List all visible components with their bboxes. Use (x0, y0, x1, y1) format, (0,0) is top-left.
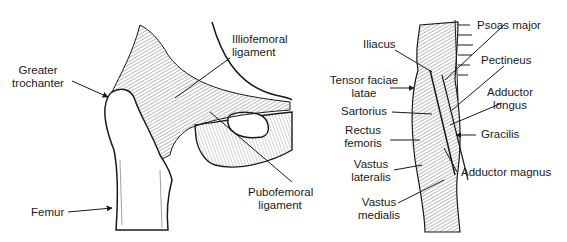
label-line: Vastus (348, 158, 394, 171)
label-line: Adductor (482, 86, 538, 99)
label-line: Illiofemoral (232, 33, 288, 46)
label-line: Vastus (356, 196, 402, 209)
label-line: ligament (232, 46, 288, 59)
label-line: femoris (340, 137, 386, 150)
label-line: Greater (8, 64, 68, 77)
label-line: medialis (356, 209, 402, 222)
label-iliofemoral-ligament: Illiofemoral ligament (232, 33, 288, 58)
label-psoas-major: Psoas major (477, 19, 541, 32)
label-line: Rectus (340, 124, 386, 137)
label-line: lateralis (348, 171, 394, 184)
label-gracilis: Gracilis (481, 128, 519, 141)
label-vastus-lateralis: Vastus lateralis (348, 158, 394, 183)
label-line: Tensor faciae (326, 74, 402, 87)
label-iliacus: Iliacus (363, 38, 396, 51)
thigh-drawing (390, 20, 504, 232)
label-pubofemoral-ligament: Pubofemoral ligament (248, 186, 312, 211)
label-vastus-medialis: Vastus medialis (356, 196, 402, 221)
label-line: trochanter (8, 77, 68, 90)
label-adductor-longus: Adductor longus (482, 86, 538, 111)
label-line: longus (482, 99, 538, 112)
label-rectus-femoris: Rectus femoris (340, 124, 386, 149)
label-pectineus: Pectineus (481, 54, 532, 67)
label-greater-trochanter: Greater trochanter (8, 64, 68, 89)
label-tensor-faciae-latae: Tensor faciae latae (326, 74, 402, 99)
label-sartorius: Sartorius (341, 105, 387, 118)
label-line: latae (326, 87, 402, 100)
label-line: Pubofemoral (248, 186, 312, 199)
label-adductor-magnus: Adductor magnus (461, 166, 551, 179)
label-line: ligament (248, 199, 312, 212)
label-femur: Femur (31, 206, 64, 219)
